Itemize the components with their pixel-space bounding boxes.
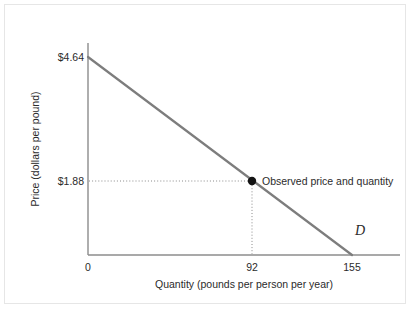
observed-point-marker	[248, 177, 256, 185]
x-tick-label-92: 92	[246, 261, 258, 273]
y-tick-label-188: $1.88	[58, 175, 84, 187]
x-tick-label-origin: 0	[85, 261, 91, 273]
y-axis-title: Price (dollars per pound)	[29, 92, 41, 207]
observed-point-callout-label: Observed price and quantity	[262, 175, 394, 187]
demand-curve-label: D	[354, 223, 365, 238]
x-axis-title: Quantity (pounds per person per year)	[155, 278, 333, 290]
demand-curve-plot: $4.64 $1.88 0 92 155 Quantity (pounds pe…	[0, 0, 412, 310]
demand-curve-line	[88, 57, 352, 255]
y-tick-label-464: $4.64	[58, 51, 84, 63]
x-tick-label-155: 155	[343, 261, 361, 273]
demand-curve-figure: $4.64 $1.88 0 92 155 Quantity (pounds pe…	[0, 0, 412, 310]
